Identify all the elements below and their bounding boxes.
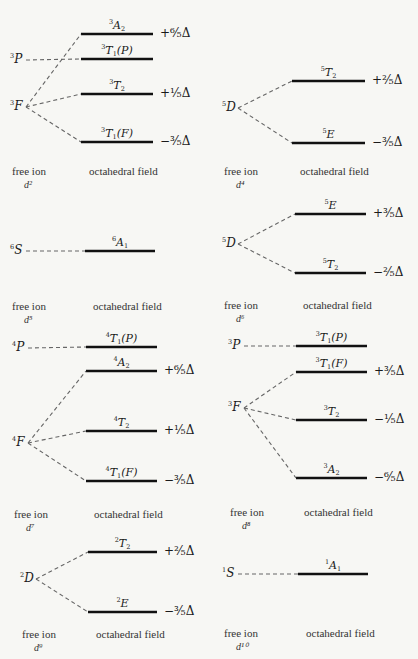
correlation-dashed-line [26, 34, 81, 107]
electron-configuration: d⁴ [236, 180, 244, 190]
state-label: 4T1(F) [106, 466, 138, 480]
energy-value: −²⁄₅Δ [373, 266, 403, 278]
energy-value: +³⁄₅Δ [374, 365, 404, 377]
energy-value: +⁶⁄₅Δ [164, 364, 194, 376]
state-label: 3T1(P) [316, 331, 348, 345]
free-ion-term: 3F [228, 401, 240, 413]
octahedral-field-caption: octahedral field [89, 166, 158, 177]
correlation-dashed-line [238, 81, 292, 108]
correlation-dashed-line [244, 372, 296, 408]
state-label: 1A1 [325, 559, 341, 573]
state-label: 3A2 [109, 19, 125, 33]
correlation-dashed-line [28, 443, 86, 481]
correlation-dashed-line [238, 108, 292, 143]
free-ion-caption: free ion [12, 166, 46, 177]
energy-value: +¹⁄₅Δ [164, 424, 194, 436]
free-ion-term: 2D [20, 572, 34, 584]
state-label: 5T2 [323, 258, 339, 272]
energy-value: −¹⁄₅Δ [374, 413, 404, 425]
energy-value: +²⁄₅Δ [372, 74, 402, 86]
energy-value: −³⁄₅Δ [164, 474, 194, 486]
octahedral-field-caption: octahedral field [300, 166, 369, 177]
correlation-dashed-line [238, 244, 295, 273]
state-label: 3T1(P) [101, 44, 133, 58]
octahedral-field-caption: octahedral field [303, 300, 372, 311]
correlation-dashed-line [28, 431, 86, 443]
free-ion-term: 1S [222, 567, 234, 579]
free-ion-caption: free ion [12, 301, 46, 312]
free-ion-term: 4P [12, 341, 24, 353]
correlation-dashed-line [36, 579, 88, 612]
electron-configuration: d⁶ [236, 314, 244, 324]
state-label: 5E [324, 199, 336, 211]
free-ion-term: 4F [12, 436, 24, 448]
correlation-dashed-line [28, 347, 86, 348]
energy-value: +¹⁄₅Δ [160, 87, 190, 99]
free-ion-term: 3P [10, 53, 22, 65]
free-ion-caption: free ion [224, 166, 258, 177]
state-label: 5E [322, 128, 334, 140]
free-ion-term: 5D [222, 237, 236, 249]
state-label: 5T2 [321, 66, 337, 80]
state-label: 2T2 [115, 537, 131, 551]
state-label: 4T2 [114, 416, 130, 430]
energy-value: +²⁄₅Δ [164, 545, 194, 557]
correlation-dashed-line [238, 214, 295, 244]
correlation-dashed-line [26, 107, 81, 142]
electron-configuration: d⁸ [242, 521, 250, 531]
electron-configuration: d⁵ [24, 315, 32, 325]
energy-value: +³⁄₅Δ [373, 207, 403, 219]
energy-value: −³⁄₅Δ [160, 135, 190, 147]
octahedral-field-caption: octahedral field [306, 628, 375, 639]
octahedral-field-caption: octahedral field [304, 507, 373, 518]
octahedral-field-caption: octahedral field [96, 629, 165, 640]
state-label: 3T1(F) [101, 127, 133, 141]
free-ion-term: 3F [10, 100, 22, 112]
octahedral-field-caption: octahedral field [94, 509, 163, 520]
free-ion-caption: free ion [224, 300, 258, 311]
state-label: 3A2 [323, 463, 339, 477]
correlation-dashed-line [26, 94, 81, 107]
state-label: 2E [116, 597, 128, 609]
electron-configuration: d¹⁰ [236, 642, 248, 652]
free-ion-caption: free ion [22, 629, 56, 640]
electron-configuration: d⁷ [26, 523, 34, 533]
electron-configuration: d² [24, 180, 32, 190]
free-ion-term: 6S [10, 244, 22, 256]
diagram-lines [0, 0, 418, 659]
free-ion-term: 3P [228, 339, 240, 351]
energy-value: +⁶⁄₅Δ [160, 27, 190, 39]
state-label: 6A1 [112, 236, 128, 250]
state-label: 3T2 [109, 79, 125, 93]
energy-value: −³⁄₅Δ [164, 605, 194, 617]
state-label: 4A2 [113, 356, 129, 370]
free-ion-caption: free ion [230, 507, 264, 518]
term-splitting-diagram: 3A2+⁶⁄₅Δ3T1(P)3T2+¹⁄₅Δ3T1(F)−³⁄₅Δ3P3Ffre… [0, 0, 418, 659]
correlation-dashed-line [36, 552, 88, 579]
energy-value: −³⁄₅Δ [372, 136, 402, 148]
state-label: 3T1(F) [316, 357, 348, 371]
correlation-dashed-line [244, 408, 296, 420]
correlation-dashed-line [26, 59, 81, 60]
free-ion-term: 5D [222, 101, 236, 113]
state-label: 4T1(P) [106, 332, 138, 346]
free-ion-caption: free ion [224, 628, 258, 639]
free-ion-caption: free ion [14, 509, 48, 520]
energy-value: −⁶⁄₅Δ [374, 471, 404, 483]
correlation-dashed-line [28, 371, 86, 443]
octahedral-field-caption: octahedral field [93, 301, 162, 312]
electron-configuration: d⁹ [34, 643, 42, 653]
state-label: 3T2 [324, 405, 340, 419]
